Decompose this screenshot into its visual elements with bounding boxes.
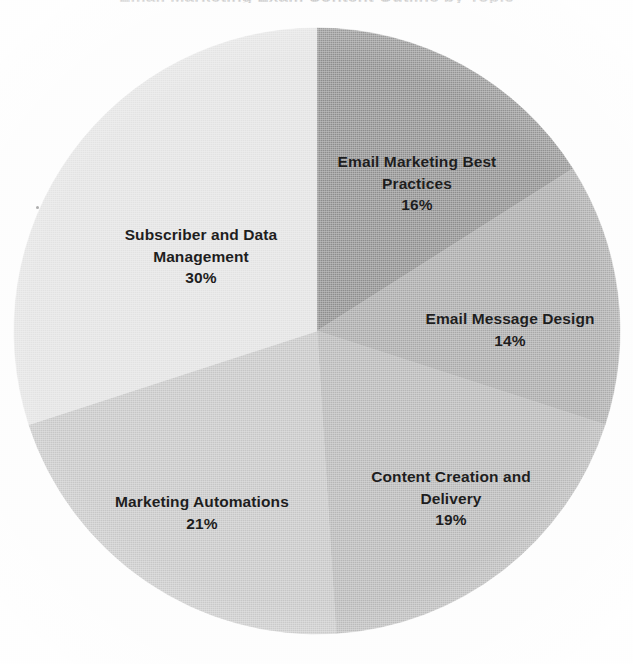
slice-label-text: Subscriber and Data Management — [125, 226, 278, 264]
slice-percent: 21% — [82, 513, 322, 534]
scanned-page: Email Marketing Exam Content Outline by … — [0, 0, 633, 664]
slice-percent: 30% — [78, 267, 324, 288]
slice-label-email-marketing-best-practices: Email Marketing Best Practices 16% — [314, 130, 520, 237]
slice-label-marketing-automations: Marketing Automations 21% — [82, 470, 322, 556]
slice-label-text: Email Marketing Best Practices — [338, 153, 497, 191]
slice-label-text: Content Creation and Delivery — [371, 468, 531, 506]
slice-label-text: Email Message Design — [425, 310, 594, 327]
slice-percent: 16% — [314, 194, 520, 215]
scan-speck — [36, 206, 39, 209]
pie-chart: Email Marketing Best Practices 16% Email… — [0, 0, 633, 664]
slice-label-text: Marketing Automations — [115, 493, 289, 510]
slice-percent: 14% — [412, 330, 608, 351]
slice-label-subscriber-and-data-management: Subscriber and Data Management 30% — [78, 203, 324, 310]
slice-label-content-creation-and-delivery: Content Creation and Delivery 19% — [351, 445, 551, 552]
slice-percent: 19% — [351, 509, 551, 530]
slice-label-email-message-design: Email Message Design 14% — [412, 287, 608, 373]
